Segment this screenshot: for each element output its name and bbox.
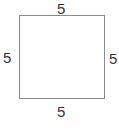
side-label-top: 5 — [57, 1, 65, 16]
side-label-left: 5 — [3, 50, 11, 65]
side-label-right: 5 — [109, 51, 117, 66]
square-shape — [19, 15, 105, 99]
side-label-bottom: 5 — [57, 104, 65, 119]
